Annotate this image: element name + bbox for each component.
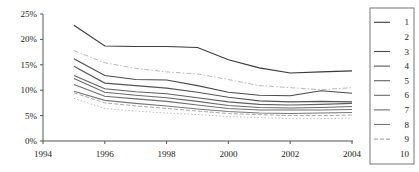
legend-label-10: 10 bbox=[400, 149, 410, 159]
legend-label-2: 2 bbox=[405, 32, 410, 42]
legend-label-5: 5 bbox=[405, 76, 410, 86]
legend-label-4: 4 bbox=[405, 61, 410, 71]
axis-lines bbox=[43, 14, 353, 141]
x-axis-tick-label: 1998 bbox=[158, 149, 177, 159]
series-line-4 bbox=[74, 66, 352, 102]
legend-label-3: 3 bbox=[405, 47, 410, 57]
legend-label-8: 8 bbox=[405, 120, 410, 130]
y-axis-tick-label: 15% bbox=[21, 60, 38, 70]
x-axis-tick-label: 1996 bbox=[96, 149, 115, 159]
x-axis-tick-label: 1994 bbox=[34, 149, 53, 159]
y-axis-tick-label: 0% bbox=[25, 136, 38, 146]
series-line-5 bbox=[74, 75, 352, 104]
legend-label-9: 9 bbox=[405, 134, 410, 144]
y-axis-tick-label: 25% bbox=[21, 9, 38, 19]
y-axis-tick-label: 5% bbox=[25, 111, 38, 121]
x-axis-tick-label: 2002 bbox=[281, 149, 299, 159]
x-axis-tick-label: 2000 bbox=[219, 149, 238, 159]
chart-container: 0%5%10%15%20%25%199419961998200020022004… bbox=[0, 0, 419, 172]
series-line-1 bbox=[74, 25, 352, 73]
legend-label-7: 7 bbox=[405, 105, 410, 115]
line-chart: 0%5%10%15%20%25%199419961998200020022004… bbox=[0, 0, 419, 172]
x-axis-tick-label: 2004 bbox=[343, 149, 362, 159]
legend-label-6: 6 bbox=[405, 90, 410, 100]
y-axis-tick-label: 20% bbox=[21, 34, 38, 44]
y-axis-tick-label: 10% bbox=[21, 85, 38, 95]
chart-svg: 0%5%10%15%20%25%199419961998200020022004… bbox=[0, 0, 419, 172]
legend-label-1: 1 bbox=[405, 17, 410, 27]
